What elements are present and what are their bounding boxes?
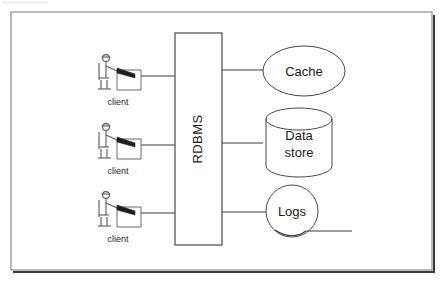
scan-artifact <box>2 1 48 4</box>
cache-label: Cache <box>285 64 323 79</box>
client-label-2: client <box>107 166 129 176</box>
logs-label: Logs <box>278 204 307 219</box>
diagram-canvas: RDBMS <box>0 0 446 284</box>
architecture-diagram: RDBMS <box>0 0 446 284</box>
datastore-label-line1: Data <box>285 128 313 143</box>
rdbms-label: RDBMS <box>190 115 205 164</box>
datastore-label-line2: store <box>285 145 314 160</box>
client-label-1: client <box>107 97 129 107</box>
client-label-3: client <box>107 234 129 244</box>
rdbms-node[interactable]: RDBMS <box>175 33 222 245</box>
